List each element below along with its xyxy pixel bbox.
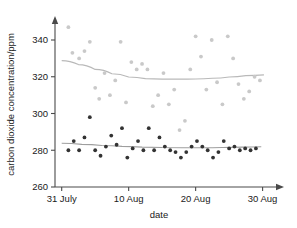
data-point bbox=[162, 71, 166, 75]
data-point bbox=[129, 60, 133, 64]
data-point bbox=[195, 139, 199, 143]
data-point bbox=[258, 79, 262, 83]
data-point bbox=[142, 148, 146, 152]
data-point bbox=[226, 34, 230, 38]
data-point bbox=[158, 135, 162, 139]
data-point bbox=[200, 145, 204, 149]
data-point bbox=[199, 55, 203, 59]
data-point bbox=[253, 75, 257, 79]
data-point bbox=[172, 88, 176, 92]
data-point bbox=[104, 145, 108, 149]
data-point bbox=[77, 56, 81, 60]
data-point bbox=[83, 49, 87, 53]
data-point bbox=[217, 150, 221, 154]
x-axis-tick-label: 30 Aug bbox=[248, 193, 278, 204]
x-axis-tick-label: 20 Aug bbox=[181, 193, 211, 204]
data-point bbox=[93, 86, 97, 90]
data-point bbox=[237, 82, 241, 86]
data-point bbox=[167, 102, 171, 106]
data-point bbox=[140, 62, 144, 66]
data-point bbox=[113, 79, 117, 83]
data-point bbox=[77, 148, 81, 152]
data-point bbox=[190, 145, 194, 149]
lower-trend bbox=[62, 143, 262, 147]
data-point bbox=[183, 119, 187, 123]
data-point bbox=[249, 148, 253, 152]
data-point bbox=[215, 80, 219, 84]
data-point bbox=[125, 156, 129, 160]
data-point bbox=[131, 147, 135, 151]
y-axis-tick-label: 260 bbox=[32, 181, 48, 192]
y-axis-tick-label: 320 bbox=[32, 71, 48, 82]
data-point bbox=[88, 40, 92, 44]
data-point bbox=[124, 101, 128, 105]
data-point bbox=[108, 93, 112, 97]
data-point bbox=[227, 147, 231, 151]
data-point bbox=[120, 126, 124, 130]
data-point bbox=[97, 97, 101, 101]
data-point bbox=[99, 154, 103, 158]
data-point bbox=[163, 145, 167, 149]
data-point bbox=[211, 156, 215, 160]
data-point bbox=[136, 139, 140, 143]
data-point bbox=[204, 88, 208, 92]
data-point bbox=[168, 148, 172, 152]
data-point bbox=[247, 90, 251, 94]
data-point bbox=[188, 68, 192, 72]
y-axis-arrow-icon bbox=[52, 16, 58, 24]
x-axis-tick-label: 31 July bbox=[47, 193, 77, 204]
data-point bbox=[238, 148, 242, 152]
x-axis-tick-label: 10 Aug bbox=[114, 193, 144, 204]
x-axis-arrow-icon bbox=[276, 184, 284, 190]
data-point bbox=[151, 104, 155, 108]
data-point bbox=[93, 148, 97, 152]
data-point bbox=[135, 68, 139, 72]
x-axis-title: date bbox=[150, 209, 169, 220]
chart-screenshot: 26028030032034031 July10 Aug20 Aug30 Aug… bbox=[0, 0, 297, 228]
data-point bbox=[66, 148, 70, 152]
y-axis-tick-label: 300 bbox=[32, 108, 48, 119]
y-axis-tick-label: 280 bbox=[32, 145, 48, 156]
data-point bbox=[233, 145, 237, 149]
data-point bbox=[221, 102, 225, 106]
data-point bbox=[146, 68, 150, 72]
data-point bbox=[115, 143, 119, 147]
data-point bbox=[242, 97, 246, 101]
y-axis-tick-label: 340 bbox=[32, 34, 48, 45]
data-point bbox=[71, 51, 75, 55]
scatter-chart: 26028030032034031 July10 Aug20 Aug30 Aug… bbox=[0, 0, 297, 228]
data-point bbox=[103, 71, 107, 75]
data-point bbox=[147, 126, 151, 130]
data-point bbox=[231, 56, 235, 60]
data-point bbox=[66, 25, 70, 29]
data-point bbox=[152, 148, 156, 152]
data-point bbox=[174, 150, 178, 154]
y-axis-title: carbon dioxide concentration/ppm bbox=[5, 33, 16, 176]
data-point bbox=[194, 34, 198, 38]
data-point bbox=[119, 40, 123, 44]
data-point bbox=[184, 150, 188, 154]
data-point bbox=[210, 38, 214, 42]
lower-series bbox=[66, 115, 257, 159]
data-point bbox=[222, 139, 226, 143]
data-point bbox=[254, 147, 258, 151]
data-point bbox=[206, 148, 210, 152]
data-point bbox=[109, 134, 113, 138]
data-point bbox=[88, 115, 92, 119]
data-point bbox=[156, 93, 160, 97]
data-point bbox=[72, 139, 76, 143]
data-point bbox=[83, 135, 87, 139]
data-point bbox=[243, 147, 247, 151]
data-point bbox=[178, 128, 182, 132]
data-point bbox=[179, 156, 183, 160]
upper-trend bbox=[62, 61, 264, 80]
